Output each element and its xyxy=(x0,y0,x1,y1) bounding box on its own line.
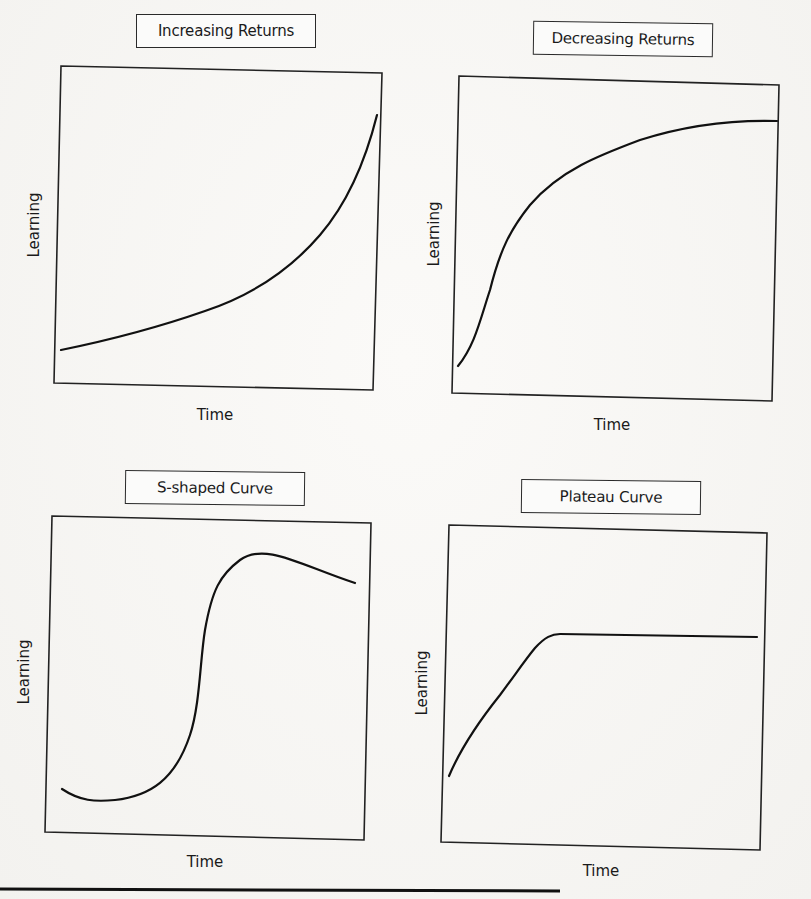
x-axis-label: Time xyxy=(187,853,224,871)
panel-increasing-returns xyxy=(54,66,382,390)
curve-increasing-returns xyxy=(61,115,377,350)
panel-decreasing-returns xyxy=(452,76,779,401)
panel-title-text: Decreasing Returns xyxy=(551,29,694,49)
figure-canvas xyxy=(0,0,811,899)
curve-s-shaped xyxy=(62,553,355,800)
y-axis-label: Learning xyxy=(425,201,443,266)
y-axis-label: Learning xyxy=(413,650,431,715)
panel-title-plateau-curve: Plateau Curve xyxy=(521,479,701,515)
panel-s-shaped-curve xyxy=(45,516,371,840)
plot-frame xyxy=(45,516,371,840)
curve-decreasing-returns xyxy=(458,121,777,366)
panel-plateau-curve xyxy=(441,525,767,850)
x-axis-label: Time xyxy=(594,416,631,434)
y-axis-label: Learning xyxy=(25,192,43,257)
bottom-rule xyxy=(0,889,560,891)
curve-plateau xyxy=(449,634,757,776)
panel-title-decreasing-returns: Decreasing Returns xyxy=(533,21,713,58)
panel-title-increasing-returns: Increasing Returns xyxy=(136,14,316,48)
panel-title-text: S-shaped Curve xyxy=(157,478,273,497)
plot-frame xyxy=(441,525,767,850)
panel-title-text: Plateau Curve xyxy=(560,487,663,506)
plot-frame xyxy=(452,76,779,401)
panel-title-text: Increasing Returns xyxy=(158,22,294,40)
x-axis-label: Time xyxy=(583,862,620,880)
panel-title-s-shaped-curve: S-shaped Curve xyxy=(125,470,305,506)
y-axis-label: Learning xyxy=(15,639,33,704)
x-axis-label: Time xyxy=(197,406,234,424)
